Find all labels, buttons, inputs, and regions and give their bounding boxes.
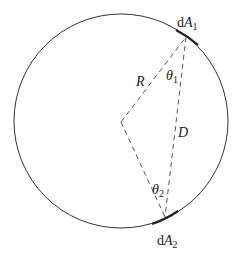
label-radius: R [135, 74, 145, 89]
center-to-element2-line [121, 122, 165, 217]
surface-element-1 [176, 30, 198, 45]
label-theta2: θ2 [152, 182, 164, 199]
label-chord: D [177, 125, 188, 140]
label-dA1: dA1 [177, 15, 198, 32]
label-dA2: dA2 [157, 233, 178, 250]
sphere-diagram: dA1 R θ1 D θ2 dA2 [0, 0, 237, 256]
sphere-outline [14, 14, 228, 228]
label-theta1: θ1 [166, 68, 178, 85]
surface-element-2 [152, 211, 178, 224]
